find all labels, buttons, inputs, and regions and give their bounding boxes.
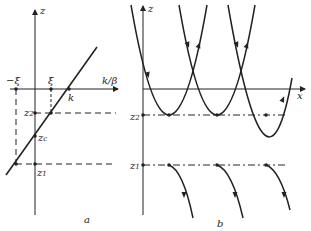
panel-a-caption: a (84, 215, 90, 225)
parabola-1 (131, 5, 207, 115)
diagram-graphics (0, 0, 311, 231)
trajectory-1 (169, 165, 193, 218)
panel-b-z2-label: z2 (130, 112, 140, 122)
panel-b-graphics (131, 5, 305, 218)
panel-a-graphics (6, 10, 118, 215)
panel-a-z1-label: z1 (37, 168, 47, 178)
panel-b-points (141, 113, 268, 167)
panel-a-z-axis-label: z (40, 6, 45, 16)
trajectory-3 (266, 165, 290, 210)
minus-xi-label: −ξ (6, 76, 20, 86)
k-label: k (68, 93, 74, 103)
panel-b-x-axis-label: x (297, 91, 303, 101)
figure: z k/β −ξ ξ k z2 zc z1 a z x z2 z1 b (0, 0, 311, 231)
panel-b-z1-label: z1 (130, 161, 140, 171)
parabola-2 (179, 5, 255, 115)
trajectory-2 (217, 165, 243, 218)
panel-b-arrowheads (145, 41, 287, 198)
panel-a-kbeta-axis-label: k/β (102, 76, 117, 86)
xi-label: ξ (48, 76, 54, 86)
panel-a-z2-label: z2 (24, 108, 34, 118)
zc-label: zc (38, 133, 47, 143)
panel-b-caption: b (217, 219, 223, 229)
panel-b-z-axis-label: z (148, 4, 153, 14)
panel-a-points (14, 87, 71, 166)
parabola-3 (228, 5, 292, 137)
